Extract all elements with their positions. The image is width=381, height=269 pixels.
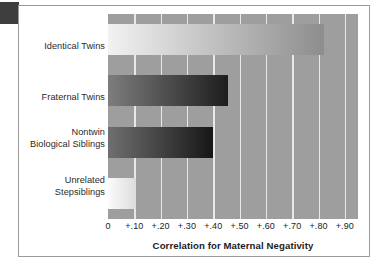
category-label-line: Unrelated: [20, 175, 105, 187]
x-axis-title: Correlation for Maternal Negativity: [108, 240, 358, 251]
x-tick-label: +.10: [125, 221, 143, 231]
category-label-line: Biological Siblings: [20, 139, 105, 151]
category-label-line: Nontwin: [20, 127, 105, 139]
x-tick-label: +.40: [204, 221, 222, 231]
x-tick-label: +.70: [283, 221, 301, 231]
bar-unrelated-stepsiblings: [108, 178, 136, 209]
category-label-fraternal-twins: Fraternal Twins: [20, 92, 105, 104]
x-tick-label: +.20: [152, 221, 170, 231]
bar-fraternal-twins: [108, 75, 228, 106]
chart-figure: Identical Twins Fraternal Twins Nontwin …: [0, 0, 381, 269]
bar-nontwin-biological-siblings: [108, 127, 213, 158]
category-label-unrelated-stepsiblings: Unrelated Stepsiblings: [20, 175, 105, 198]
category-axis-labels: Identical Twins Fraternal Twins Nontwin …: [20, 14, 105, 219]
x-tick-label: +.50: [230, 221, 248, 231]
x-tick-label: +.80: [309, 221, 327, 231]
corner-tab-decoration: [0, 2, 19, 24]
bar-row: [108, 127, 358, 158]
category-label-nontwin-biological-siblings: Nontwin Biological Siblings: [20, 127, 105, 150]
bar-identical-twins: [108, 24, 324, 55]
plot-area: [108, 14, 358, 219]
category-label-line: Stepsiblings: [20, 187, 105, 199]
x-tick-label: 0: [105, 221, 110, 231]
bar-row: [108, 24, 358, 55]
x-axis-tick-labels: 0+.10+.20+.30+.40+.50+.60+.70+.80+.90: [108, 221, 358, 235]
x-tick-label: +.60: [257, 221, 275, 231]
bar-row: [108, 178, 358, 209]
x-tick-label: +.30: [178, 221, 196, 231]
category-label-identical-twins: Identical Twins: [20, 41, 105, 53]
bar-row: [108, 75, 358, 106]
category-label-line: Identical Twins: [20, 41, 105, 53]
x-tick-label: +.90: [336, 221, 354, 231]
category-label-line: Fraternal Twins: [20, 92, 105, 104]
